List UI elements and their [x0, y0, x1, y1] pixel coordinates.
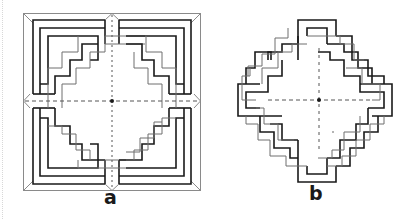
center-dot-a: [110, 99, 114, 103]
figure-label-a: a: [104, 188, 117, 207]
figure-label-b: b: [309, 184, 323, 203]
figure-b: b: [210, 0, 412, 219]
figure-a: a: [0, 0, 210, 219]
center-dot-b: [317, 98, 321, 102]
